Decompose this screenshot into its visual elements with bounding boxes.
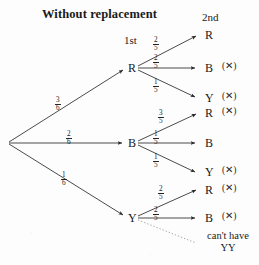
probability-root-to-B: 2 6 xyxy=(66,131,72,147)
probability-R-to-R: 2 5 xyxy=(153,37,159,53)
outcome-R-B: B xyxy=(205,62,213,74)
exclusion-mark-R-B: (✕) xyxy=(222,62,236,72)
branch-B-to-Y xyxy=(138,145,195,172)
node-first-B: B xyxy=(128,137,136,149)
outcome-B-B: B xyxy=(205,137,213,149)
probability-B-to-R: 3 5 xyxy=(158,110,164,126)
outcome-B-Y: Y xyxy=(205,166,214,178)
second-stage-branches-from-Y xyxy=(138,190,196,243)
node-first-R: R xyxy=(128,62,136,74)
stage-1-header: 1st xyxy=(124,35,137,46)
probability-R-to-B: 2 5 xyxy=(153,55,159,71)
branch-R-to-R xyxy=(138,36,196,66)
exclusion-mark-Y-R: (✕) xyxy=(222,184,236,194)
outcome-Y-B: B xyxy=(205,212,213,224)
branch-Y-to-Y-impossible xyxy=(138,220,196,243)
second-stage-branches-from-R xyxy=(138,36,196,97)
impossible-outcome-note: can't have YY xyxy=(199,230,257,255)
probability-R-to-Y: 1 5 xyxy=(153,79,159,95)
stage-2-header: 2nd xyxy=(202,12,219,23)
outcome-R-Y: Y xyxy=(205,92,214,104)
probability-root-to-R: 3 6 xyxy=(55,97,61,113)
probability-Y-to-R: 2 5 xyxy=(158,186,164,202)
exclusion-mark-B-R: (✕) xyxy=(222,107,236,117)
exclusion-mark-R-Y: (✕) xyxy=(222,92,236,102)
branch-B-to-R xyxy=(138,114,196,141)
outcome-R-R: R xyxy=(205,29,213,41)
probability-tree-diagram: Without replacement 1st 2nd 3 6 2 6 1 6 … xyxy=(0,0,259,265)
outcome-B-R: R xyxy=(205,107,213,119)
branch-R-to-Y xyxy=(138,70,195,97)
branch-Y-to-R xyxy=(138,190,196,216)
probability-B-to-B: 1 5 xyxy=(153,131,159,147)
probability-root-to-Y: 1 6 xyxy=(61,172,67,188)
exclusion-mark-Y-B: (✕) xyxy=(222,212,236,222)
probability-B-to-Y: 1 5 xyxy=(153,154,159,170)
outcome-Y-R: R xyxy=(205,184,213,196)
second-stage-branches-from-B xyxy=(138,114,196,172)
exclusion-mark-B-Y: (✕) xyxy=(222,166,236,176)
node-first-Y: Y xyxy=(128,212,137,224)
page-title: Without replacement xyxy=(42,8,157,21)
probability-Y-to-B: 2 5 xyxy=(153,207,159,223)
